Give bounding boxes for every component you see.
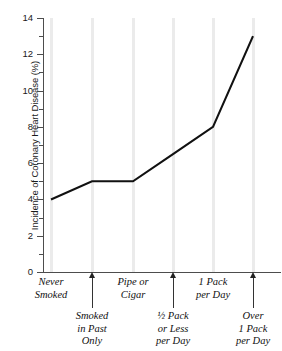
- category-leader-line: [253, 278, 254, 308]
- category-label: Never Smoked: [11, 276, 91, 301]
- category-leader-line: [173, 278, 174, 308]
- y-tick-minor: [39, 145, 43, 146]
- y-tick-label: 14: [3, 12, 33, 23]
- category-label: ½ Pack or Less per Day: [133, 310, 213, 348]
- y-tick-minor: [39, 181, 43, 182]
- y-tick-major: [37, 272, 43, 273]
- y-tick-label: 10: [3, 85, 33, 96]
- y-tick-major: [37, 91, 43, 92]
- category-gridline: [252, 18, 255, 272]
- category-gridline: [172, 18, 175, 272]
- category-label: 1 Pack per Day: [173, 276, 253, 301]
- y-tick-major: [37, 127, 43, 128]
- category-leader-line: [92, 278, 93, 308]
- category-label: Over 1 Pack per Day: [213, 310, 282, 348]
- category-label: Smoked in Past Only: [52, 310, 132, 348]
- category-gridline: [132, 18, 135, 272]
- y-tick-label: 8: [3, 121, 33, 132]
- x-axis-line: [43, 272, 281, 273]
- y-tick-major: [37, 199, 43, 200]
- category-gridline: [91, 18, 94, 272]
- y-tick-minor: [39, 218, 43, 219]
- category-gridline: [212, 18, 215, 272]
- y-tick-minor: [39, 109, 43, 110]
- category-label: Pipe or Cigar: [93, 276, 173, 301]
- y-tick-major: [37, 18, 43, 19]
- y-tick-minor: [39, 36, 43, 37]
- data-line: [51, 36, 253, 199]
- category-gridline: [50, 18, 53, 272]
- y-tick-minor: [39, 72, 43, 73]
- y-tick-major: [37, 236, 43, 237]
- y-tick-major: [37, 54, 43, 55]
- y-tick-minor: [39, 254, 43, 255]
- y-tick-major: [37, 163, 43, 164]
- y-axis-line: [43, 18, 44, 273]
- y-tick-label: 12: [3, 48, 33, 59]
- chart-figure: Incidence of Coronary Heart Disease (%) …: [0, 0, 282, 351]
- y-tick-label: 2: [3, 230, 33, 241]
- y-tick-label: 6: [3, 157, 33, 168]
- y-tick-label: 4: [3, 193, 33, 204]
